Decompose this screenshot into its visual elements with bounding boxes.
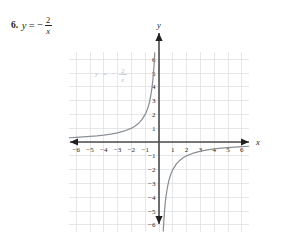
coordinate-plane-graph: y = − 2 x x y −6−5−4−3−2−1123456 −6−5−4−… (0, 0, 281, 245)
y-axis-arrow-down (155, 216, 162, 224)
watermark-minus: − (112, 70, 116, 78)
x-tick-label: −5 (86, 146, 94, 154)
x-tick-label: 2 (185, 146, 189, 154)
y-axis-label: y (156, 20, 161, 30)
y-tick-label: 3 (152, 97, 156, 105)
y-tick-label: −3 (148, 180, 156, 188)
x-tick-label: −6 (72, 146, 80, 154)
x-tick-label: −3 (114, 146, 122, 154)
y-tick-label: 2 (152, 111, 156, 119)
hyperbola-branch-quadrant-ii (69, 53, 154, 138)
x-tick-label: 1 (171, 146, 175, 154)
x-tick-label: 3 (199, 146, 203, 154)
graph-svg: y = − 2 x x y −6−5−4−3−2−1123456 −6−5−4−… (0, 0, 281, 245)
watermark-equation: y = − 2 x (94, 67, 127, 84)
x-tick-label: −4 (100, 146, 108, 154)
x-tick-label: −2 (128, 146, 136, 154)
y-tick-label: −2 (148, 166, 156, 174)
hyperbola-branch-quadrant-iv (163, 146, 248, 231)
watermark-equals: = (103, 70, 107, 78)
y-tick-label: 1 (152, 125, 156, 133)
y-tick-label: −1 (148, 152, 156, 160)
x-axis-label: x (255, 137, 260, 147)
watermark-y: y (94, 70, 99, 78)
x-tick-label: 5 (226, 146, 230, 154)
y-tick-label: −4 (148, 194, 156, 202)
y-axis-arrow-up (155, 33, 162, 41)
watermark-numerator: 2 (121, 67, 125, 75)
watermark-denominator: x (120, 76, 125, 84)
y-tick-label: −5 (148, 208, 156, 216)
y-tick-label: −6 (148, 221, 156, 229)
